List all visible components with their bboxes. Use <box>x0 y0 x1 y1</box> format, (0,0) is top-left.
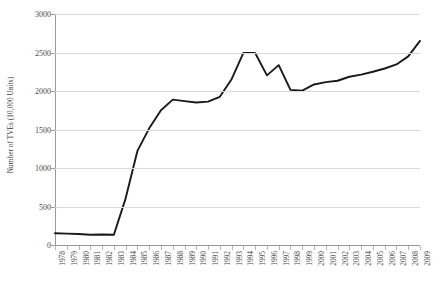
x-axis-tick-label: 1981 <box>93 251 102 266</box>
gridline <box>55 91 420 92</box>
x-axis-tick-mark <box>396 246 397 250</box>
y-axis-tick-label: 1500 <box>35 125 51 134</box>
x-axis-tick-mark <box>279 246 280 250</box>
x-axis-tick-label: 1985 <box>140 251 149 266</box>
x-axis-tick-label: 2003 <box>352 251 361 266</box>
x-axis-tick-label: 1993 <box>235 251 244 266</box>
x-axis-tick-label: 2002 <box>341 251 350 266</box>
x-axis-tick-label: 2006 <box>388 251 397 266</box>
x-axis-tick-label: 1987 <box>164 251 173 266</box>
x-axis-tick-mark <box>102 246 103 250</box>
x-axis-tick-mark <box>243 246 244 250</box>
x-axis-tick-mark <box>267 246 268 250</box>
x-axis-tick-mark <box>232 246 233 250</box>
y-axis-tick-mark <box>50 130 55 131</box>
x-axis-tick-label: 1988 <box>176 251 185 266</box>
gridline <box>55 53 420 54</box>
y-axis-tick-mark <box>50 168 55 169</box>
x-axis-tick-mark <box>126 246 127 250</box>
x-axis-tick-mark <box>255 246 256 250</box>
x-axis-tick-mark <box>314 246 315 250</box>
y-axis-tick-mark <box>50 53 55 54</box>
x-axis-tick-labels: 1978197919801981198219831984198519861987… <box>55 251 420 289</box>
x-axis-tick-label: 2004 <box>364 251 373 266</box>
x-axis-tick-label: 1995 <box>258 251 267 266</box>
chart-container: Number of TVEs (10,000 Units) 0500100015… <box>0 0 443 289</box>
x-axis-tick-label: 1998 <box>293 251 302 266</box>
gridline <box>55 168 420 169</box>
gridline <box>55 130 420 131</box>
x-axis-tick-label: 1990 <box>199 251 208 266</box>
x-axis-tick-mark <box>326 246 327 250</box>
x-axis-tick-mark <box>90 246 91 250</box>
x-axis-tick-label: 1979 <box>70 251 79 266</box>
gridline <box>55 14 420 15</box>
x-axis-tick-mark <box>208 246 209 250</box>
x-axis-tick-mark <box>79 246 80 250</box>
y-axis-tick-label: 2000 <box>35 87 51 96</box>
x-axis-tick-label: 2005 <box>376 251 385 266</box>
x-axis-tick-label: 2001 <box>329 251 338 266</box>
x-axis-tick-mark <box>196 246 197 250</box>
x-axis-tick-label: 1983 <box>117 251 126 266</box>
x-axis-tick-mark <box>373 246 374 250</box>
x-axis-tick-mark <box>55 246 56 250</box>
gridline <box>55 207 420 208</box>
x-axis-tick-mark <box>408 246 409 250</box>
y-axis-tick-labels: 050010001500200025003000 <box>22 0 54 250</box>
x-axis-tick-label: 1991 <box>211 251 220 266</box>
x-axis-tick-label: 2007 <box>399 251 408 266</box>
x-axis-tick-label: 1978 <box>58 251 67 266</box>
x-axis-tick-mark <box>302 246 303 250</box>
x-axis-tick-label: 1989 <box>188 251 197 266</box>
x-axis-tick-mark <box>137 246 138 250</box>
y-axis-tick-mark <box>50 14 55 15</box>
x-axis-tick-mark <box>290 246 291 250</box>
x-axis-tick-label: 1980 <box>82 251 91 266</box>
x-axis-tick-label: 1994 <box>246 251 255 266</box>
x-axis-tick-label: 1999 <box>305 251 314 266</box>
y-axis-label-wrapper: Number of TVEs (10,000 Units) <box>0 0 22 250</box>
y-axis-tick-mark <box>50 91 55 92</box>
x-axis-tick-mark <box>149 246 150 250</box>
x-axis-tick-mark <box>338 246 339 250</box>
x-axis-tick-label: 2008 <box>411 251 420 266</box>
x-axis-tick-mark <box>173 246 174 250</box>
x-axis-tick-label: 2000 <box>317 251 326 266</box>
y-axis-tick-label: 1000 <box>35 164 51 173</box>
y-axis-label: Number of TVEs (10,000 Units) <box>7 77 15 173</box>
x-axis-tick-label: 1996 <box>270 251 279 266</box>
x-axis-tick-mark <box>385 246 386 250</box>
x-axis-tick-mark <box>185 246 186 250</box>
x-axis-tick-mark <box>349 246 350 250</box>
x-axis-tick-label: 1984 <box>129 251 138 266</box>
y-axis-tick-label: 3000 <box>35 10 51 19</box>
x-axis-tick-label: 1997 <box>282 251 291 266</box>
x-axis-tick-mark <box>114 246 115 250</box>
x-axis-tick-label: 2009 <box>423 251 432 266</box>
x-axis-tick-mark <box>220 246 221 250</box>
plot-area <box>55 14 420 245</box>
x-axis-tick-mark <box>420 246 421 250</box>
x-axis-tick-mark <box>361 246 362 250</box>
x-axis-tick-mark <box>67 246 68 250</box>
x-axis-tick-mark <box>161 246 162 250</box>
x-axis-tick-label: 1986 <box>152 251 161 266</box>
x-axis-line <box>55 245 420 246</box>
x-axis-tick-label: 1982 <box>105 251 114 266</box>
y-axis-tick-mark <box>50 207 55 208</box>
x-axis-tick-label: 1992 <box>223 251 232 266</box>
y-axis-tick-label: 2500 <box>35 48 51 57</box>
